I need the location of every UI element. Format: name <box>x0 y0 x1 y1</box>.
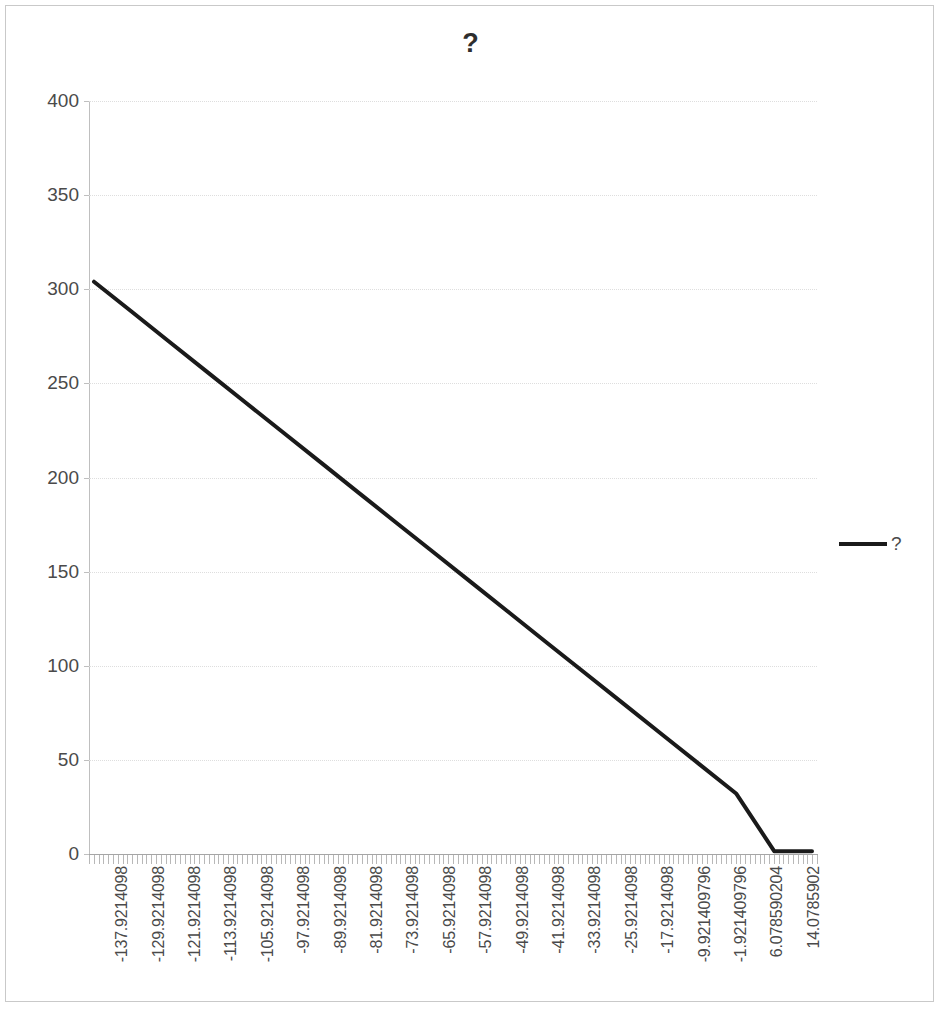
x-minor-tick <box>386 855 387 864</box>
x-minor-tick <box>817 855 818 864</box>
x-minor-tick <box>333 855 334 864</box>
x-minor-tick <box>324 855 325 864</box>
x-minor-tick <box>592 855 593 864</box>
x-minor-tick <box>659 855 660 864</box>
x-minor-tick <box>410 855 411 864</box>
x-minor-tick <box>573 855 574 864</box>
x-minor-tick <box>142 855 143 864</box>
x-minor-tick <box>400 855 401 864</box>
x-axis-tick-label: -17.9214098 <box>659 866 677 954</box>
x-axis-labels: -137.9214098-129.9214098-121.9214098-113… <box>89 866 818 1009</box>
x-minor-tick <box>180 855 181 864</box>
x-minor-tick <box>769 855 770 864</box>
y-axis-tick-label: 100 <box>19 655 79 677</box>
x-minor-tick <box>515 855 516 864</box>
x-minor-tick <box>156 855 157 864</box>
x-minor-tick <box>405 855 406 864</box>
x-axis-tick-label: -65.9214098 <box>441 866 459 954</box>
x-minor-tick <box>123 855 124 864</box>
x-minor-tick <box>146 855 147 864</box>
x-axis-tick-label: -25.9214098 <box>623 866 641 954</box>
legend-line-swatch-icon <box>839 542 887 546</box>
chart-title: ? <box>6 30 935 57</box>
x-minor-tick <box>779 855 780 864</box>
x-minor-tick <box>578 855 579 864</box>
x-axis-tick-label: -121.9214098 <box>186 866 204 962</box>
legend: ? <box>839 534 902 553</box>
x-minor-tick <box>257 855 258 864</box>
x-minor-tick <box>228 855 229 864</box>
x-minor-tick <box>625 855 626 864</box>
x-minor-tick <box>692 855 693 864</box>
x-axis-tick-label: -33.9214098 <box>586 866 604 954</box>
x-minor-tick <box>271 855 272 864</box>
x-minor-tick <box>453 855 454 864</box>
x-minor-tick <box>649 855 650 864</box>
x-minor-tick <box>247 855 248 864</box>
y-axis-tick-label: 200 <box>19 467 79 489</box>
x-minor-tick <box>343 855 344 864</box>
x-minor-tick <box>223 855 224 864</box>
y-axis-tick-label: 300 <box>19 278 79 300</box>
x-minor-tick <box>525 855 526 864</box>
x-minor-tick <box>137 855 138 864</box>
x-minor-tick <box>510 855 511 864</box>
y-axis-tick-label: 50 <box>19 749 79 771</box>
x-axis-tick-label: -41.9214098 <box>550 866 568 954</box>
x-minor-tick <box>458 855 459 864</box>
x-minor-tick <box>434 855 435 864</box>
x-minor-tick <box>678 855 679 864</box>
x-minor-tick <box>151 855 152 864</box>
y-tick-mark <box>84 195 89 196</box>
x-minor-tick <box>496 855 497 864</box>
x-axis-tick-label: -9.921409796 <box>696 866 714 962</box>
x-minor-tick <box>726 855 727 864</box>
y-tick-mark <box>84 666 89 667</box>
x-minor-tick <box>544 855 545 864</box>
x-minor-tick <box>328 855 329 864</box>
x-minor-tick <box>290 855 291 864</box>
x-minor-tick <box>568 855 569 864</box>
x-minor-tick <box>539 855 540 864</box>
x-minor-tick <box>108 855 109 864</box>
x-minor-tick <box>266 855 267 864</box>
x-minor-tick <box>740 855 741 864</box>
y-axis-tick-label: 350 <box>19 184 79 206</box>
x-minor-tick <box>736 855 737 864</box>
x-minor-tick <box>199 855 200 864</box>
x-minor-tick <box>477 855 478 864</box>
x-minor-tick <box>664 855 665 864</box>
x-axis-tick-label: -57.9214098 <box>477 866 495 954</box>
x-minor-tick <box>487 855 488 864</box>
x-minor-tick <box>707 855 708 864</box>
x-minor-tick <box>415 855 416 864</box>
x-axis-tick-label: -1.921409796 <box>732 866 750 962</box>
y-tick-mark <box>84 478 89 479</box>
x-minor-tick <box>338 855 339 864</box>
x-minor-tick <box>132 855 133 864</box>
x-minor-tick <box>798 855 799 864</box>
x-minor-tick <box>721 855 722 864</box>
x-minor-tick <box>716 855 717 864</box>
x-minor-tick <box>357 855 358 864</box>
x-minor-tick <box>463 855 464 864</box>
x-minor-tick <box>89 855 90 864</box>
x-minor-tick <box>697 855 698 864</box>
x-minor-tick <box>352 855 353 864</box>
x-minor-tick <box>348 855 349 864</box>
y-tick-mark <box>84 101 89 102</box>
x-axis-tick-label: -73.9214098 <box>404 866 422 954</box>
x-minor-tick <box>702 855 703 864</box>
x-minor-tick <box>118 855 119 864</box>
x-minor-tick <box>161 855 162 864</box>
x-minor-tick <box>683 855 684 864</box>
x-minor-tick <box>295 855 296 864</box>
x-minor-tick <box>807 855 808 864</box>
x-minor-tick <box>616 855 617 864</box>
x-minor-tick <box>563 855 564 864</box>
x-minor-tick <box>549 855 550 864</box>
x-axis-tick-label: -137.9214098 <box>113 866 131 962</box>
x-minor-tick <box>587 855 588 864</box>
x-minor-tick <box>214 855 215 864</box>
x-minor-tick <box>793 855 794 864</box>
